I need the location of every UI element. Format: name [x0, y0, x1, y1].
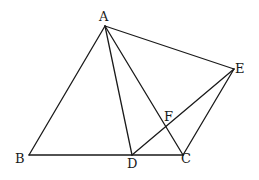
segment-de [132, 69, 234, 155]
point-label-a: A [98, 9, 109, 24]
segment-ac [105, 26, 183, 155]
point-label-e: E [235, 61, 245, 76]
point-label-d: D [127, 156, 137, 171]
point-label-f: F [164, 109, 173, 124]
segments [29, 26, 234, 155]
segment-ab [29, 26, 105, 155]
point-label-c: C [181, 151, 191, 166]
geometry-diagram: ABCDEF [0, 0, 259, 180]
point-label-b: B [15, 151, 25, 166]
segment-ad [105, 26, 132, 155]
segment-ae [105, 26, 234, 69]
diagram-svg: ABCDEF [0, 0, 259, 180]
segment-ec [183, 69, 234, 155]
